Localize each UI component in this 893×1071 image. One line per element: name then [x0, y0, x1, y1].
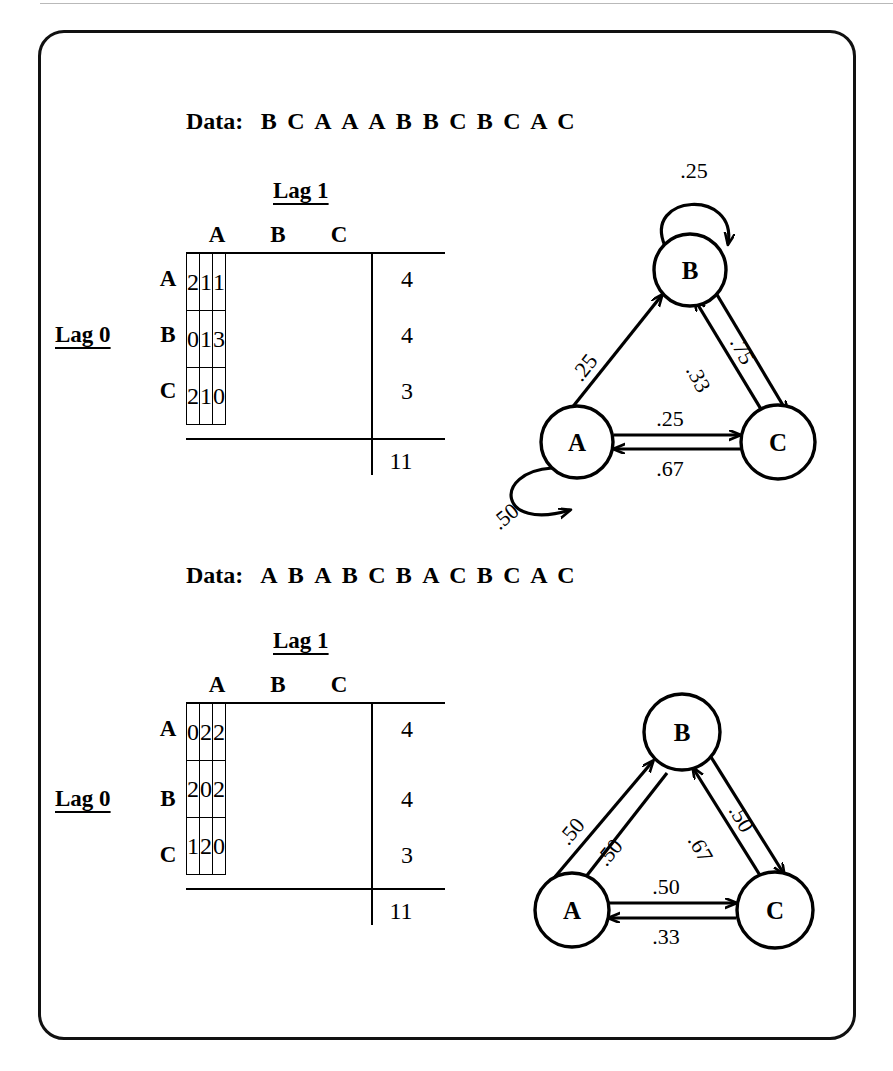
table-row: 2 0 2	[187, 761, 226, 818]
cell-a-a-1: 2	[187, 254, 200, 311]
edge-label-b-to-c-1: .75	[725, 332, 760, 368]
state-diagram-svg-1: .25 .50 .25 .33 .75 .25 .67 B A	[470, 150, 890, 550]
cell-b-b-1: 1	[200, 311, 213, 368]
edge-label-a-self-1: .50	[487, 498, 524, 535]
row-header-c-2: C	[157, 842, 179, 868]
seq-item: C	[498, 108, 525, 135]
state-diagram-1: .25 .50 .25 .33 .75 .25 .67 B A	[470, 150, 890, 550]
row-total-a-2: 4	[392, 716, 422, 743]
seq-item: A	[309, 562, 336, 589]
table-row: 0 2 2	[187, 704, 226, 761]
cell-a-b-2: 2	[200, 704, 213, 761]
lag1-title-1: Lag 1	[273, 178, 329, 204]
edge-label-c-to-b-1: .33	[681, 360, 716, 396]
seq-item: A	[309, 108, 336, 135]
cell-b-b-2: 0	[200, 761, 213, 818]
grand-total-2: 11	[383, 898, 419, 925]
data-label-1: Data:	[186, 108, 243, 134]
seq-item: B	[471, 562, 498, 589]
grand-total-1: 11	[383, 448, 419, 475]
cell-b-c-1: 3	[213, 311, 226, 368]
col-header-a-2: A	[204, 672, 230, 698]
cell-a-b-1: 1	[200, 254, 213, 311]
cell-c-b-2: 2	[200, 818, 213, 875]
node-b-label-2: B	[674, 719, 691, 746]
transition-matrix-2: 0 2 2 2 0 2 1 2 0	[186, 703, 226, 875]
edge-label-c-to-b-2: .67	[683, 830, 718, 866]
seq-item: C	[444, 562, 471, 589]
edge-label-a-to-c-1: .25	[656, 406, 684, 431]
data-label-2: Data:	[186, 562, 243, 588]
row-total-a-1: 4	[392, 266, 422, 293]
edge-label-c-to-a-1: .67	[656, 456, 684, 481]
edge-label-b-to-c-2: .50	[724, 800, 759, 836]
cell-b-c-2: 2	[213, 761, 226, 818]
row-header-a-1: A	[157, 266, 179, 292]
lag0-title-1: Lag 0	[55, 322, 111, 348]
col-header-c-1: C	[326, 222, 352, 248]
node-c-label-1: C	[769, 429, 787, 456]
state-diagram-2: .50 .50 .67 .50 .50 .33 B A C	[470, 640, 890, 980]
data-caption-2: Data:ABABCBACBCAC	[186, 562, 579, 589]
matrix-bottom-rule-2	[186, 888, 445, 890]
figure-panels: Data:BCAAABBCBCAC Lag 1 Lag 0 A B C A B …	[0, 0, 893, 1071]
row-header-a-2: A	[157, 716, 179, 742]
seq-item: B	[282, 562, 309, 589]
cell-a-a-2: 0	[187, 704, 200, 761]
row-header-b-2: B	[157, 786, 179, 812]
table-row: 0 1 3	[187, 311, 226, 368]
matrix-total-divider-1	[371, 253, 373, 475]
matrix-bottom-rule-1	[186, 438, 445, 440]
seq-item: C	[363, 562, 390, 589]
seq-item: B	[390, 108, 417, 135]
node-b-label-1: B	[682, 257, 699, 284]
seq-item: A	[255, 562, 282, 589]
cell-b-a-2: 2	[187, 761, 200, 818]
data-sequence-2: ABABCBACBCAC	[255, 562, 579, 588]
seq-item: B	[336, 562, 363, 589]
seq-item: B	[255, 108, 282, 135]
row-total-b-2: 4	[392, 786, 422, 813]
seq-item: A	[525, 562, 552, 589]
col-header-c-2: C	[326, 672, 352, 698]
edge-label-b-self-1: .25	[680, 158, 708, 183]
table-row: 2 1 0	[187, 368, 226, 425]
node-a-label-1: A	[568, 429, 586, 456]
col-header-a-1: A	[204, 222, 230, 248]
cell-a-c-1: 1	[213, 254, 226, 311]
transition-matrix-1: 2 1 1 0 1 3 2 1 0	[186, 253, 226, 425]
seq-item: B	[417, 108, 444, 135]
table-row: 2 1 1	[187, 254, 226, 311]
seq-item: A	[417, 562, 444, 589]
col-header-b-2: B	[265, 672, 291, 698]
seq-item: C	[282, 108, 309, 135]
lag0-title-2: Lag 0	[55, 786, 111, 812]
node-c-label-2: C	[766, 897, 784, 924]
data-caption-1: Data:BCAAABBCBCAC	[186, 108, 579, 135]
col-header-b-1: B	[265, 222, 291, 248]
state-diagram-svg-2: .50 .50 .67 .50 .50 .33 B A C	[470, 640, 890, 980]
seq-item: C	[498, 562, 525, 589]
row-header-b-1: B	[157, 322, 179, 348]
cell-c-a-2: 1	[187, 818, 200, 875]
cell-c-c-2: 0	[213, 818, 226, 875]
row-header-c-1: C	[157, 378, 179, 404]
data-sequence-1: BCAAABBCBCAC	[255, 108, 579, 134]
seq-item: C	[552, 108, 579, 135]
lag1-title-2: Lag 1	[273, 628, 329, 654]
cell-c-a-1: 2	[187, 368, 200, 425]
seq-item: B	[390, 562, 417, 589]
seq-item: A	[336, 108, 363, 135]
cell-b-a-1: 0	[187, 311, 200, 368]
seq-item: A	[363, 108, 390, 135]
seq-item: C	[444, 108, 471, 135]
cell-a-c-2: 2	[213, 704, 226, 761]
row-total-c-1: 3	[392, 378, 422, 405]
edge-label-c-to-a-2: .33	[652, 924, 680, 949]
matrix-total-divider-2	[371, 703, 373, 925]
seq-item: C	[552, 562, 579, 589]
edge-label-a-to-c-2: .50	[652, 874, 680, 899]
row-total-b-1: 4	[392, 322, 422, 349]
cell-c-b-1: 1	[200, 368, 213, 425]
edge-label-a-to-b-1: .25	[566, 349, 603, 386]
